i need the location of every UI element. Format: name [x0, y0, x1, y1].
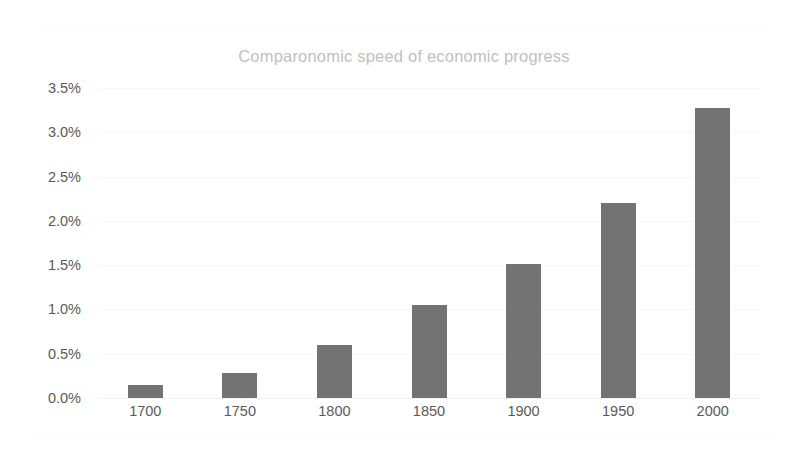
bar-chart-figure: Comparonomic speed of economic progress … [0, 0, 808, 462]
y-axis-tick-label: 0.5% [48, 346, 81, 362]
bar-1850[interactable] [412, 305, 447, 398]
x-axis-tick-label: 1950 [578, 403, 658, 419]
x-axis-tick-label: 1800 [294, 403, 374, 419]
x-axis-tick-label: 1700 [105, 403, 185, 419]
x-axis-tick-label: 1850 [389, 403, 469, 419]
chart-title: Comparonomic speed of economic progress [33, 47, 775, 66]
y-axis-tick-label: 1.5% [48, 257, 81, 273]
bar-1950[interactable] [601, 203, 636, 398]
gridline [98, 398, 760, 399]
bar-1750[interactable] [222, 373, 257, 398]
y-axis-tick-label: 3.5% [48, 80, 81, 96]
y-axis: 0.0%0.5%1.0%1.5%2.0%2.5%3.0%3.5% [33, 88, 91, 398]
y-axis-tick-label: 0.0% [48, 390, 81, 406]
y-axis-tick-label: 2.0% [48, 213, 81, 229]
y-axis-tick-label: 1.0% [48, 301, 81, 317]
y-axis-tick-label: 2.5% [48, 169, 81, 185]
x-axis: 1700175018001850190019502000 [98, 403, 760, 429]
bars-layer [98, 88, 760, 398]
x-axis-tick-label: 2000 [673, 403, 753, 419]
x-axis-tick-label: 1750 [200, 403, 280, 419]
bar-1700[interactable] [128, 385, 163, 398]
y-axis-tick-label: 3.0% [48, 124, 81, 140]
x-axis-tick-label: 1900 [484, 403, 564, 419]
bar-1800[interactable] [317, 345, 352, 398]
bar-1900[interactable] [506, 264, 541, 398]
bar-2000[interactable] [695, 108, 730, 399]
